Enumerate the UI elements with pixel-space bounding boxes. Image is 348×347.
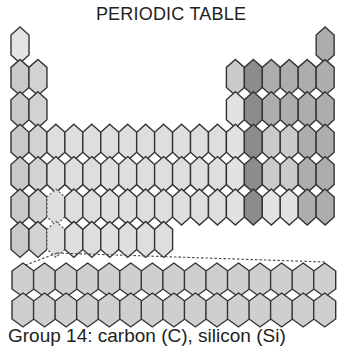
element-cell-p4-g2 bbox=[29, 124, 47, 160]
f-block-cell-r2-c13 bbox=[271, 293, 293, 327]
element-cell-p4-g10 bbox=[173, 124, 191, 160]
f-block-cell-r1-c13 bbox=[271, 263, 293, 297]
element-cell-p4-g3 bbox=[47, 124, 65, 160]
f-block-cell-r2-c15 bbox=[314, 293, 336, 327]
element-cell-p3-g15 bbox=[262, 92, 280, 128]
f-block-cell-r1-c1 bbox=[12, 263, 34, 297]
element-cell-p5-g8 bbox=[137, 157, 155, 193]
element-cell-p6-g8 bbox=[137, 189, 155, 225]
element-cell-p3-g13 bbox=[226, 92, 244, 128]
element-cell-p7-g8 bbox=[137, 221, 155, 257]
element-cell-p7-g4 bbox=[65, 221, 83, 257]
f-block-cell-r1-c10 bbox=[206, 263, 228, 297]
element-cell-p5-g1 bbox=[11, 157, 29, 193]
element-cell-p7-g2 bbox=[29, 221, 47, 257]
f-block-cell-r2-c11 bbox=[228, 293, 250, 327]
f-block-cell-r1-c11 bbox=[228, 263, 250, 297]
element-cell-p4-g5 bbox=[83, 124, 101, 160]
element-cell-p3-g2 bbox=[29, 92, 47, 128]
element-cell-p6-g11 bbox=[191, 189, 209, 225]
element-cell-p4-g15 bbox=[262, 124, 280, 160]
f-block-cell-r1-c7 bbox=[141, 263, 163, 297]
element-cell-p4-g8 bbox=[137, 124, 155, 160]
f-block-cell-r2-c6 bbox=[120, 293, 142, 327]
element-cell-p7-g5 bbox=[83, 221, 101, 257]
element-cell-p4-g1 bbox=[11, 124, 29, 160]
element-cell-p2-g2 bbox=[29, 59, 47, 95]
element-cell-p6-g15 bbox=[262, 189, 280, 225]
f-block-cell-r1-c3 bbox=[55, 263, 77, 297]
element-cell-p4-g6 bbox=[101, 124, 119, 160]
element-cell-p4-g14 bbox=[244, 124, 262, 160]
element-cell-p4-g9 bbox=[155, 124, 173, 160]
element-cell-p2-g14 bbox=[244, 59, 262, 95]
element-cell-p4-g13 bbox=[226, 124, 244, 160]
f-block-cell-r1-c2 bbox=[34, 263, 56, 297]
f-block-cell-r1-c6 bbox=[120, 263, 142, 297]
f-block-cell-r2-c9 bbox=[184, 293, 206, 327]
element-cell-p3-g14 bbox=[244, 92, 262, 128]
element-cell-p5-g2 bbox=[29, 157, 47, 193]
element-cell-p7-g6 bbox=[101, 221, 119, 257]
element-cell-p5-g3 bbox=[47, 157, 65, 193]
element-cell-p6-g7 bbox=[119, 189, 137, 225]
f-block-cell-r2-c12 bbox=[249, 293, 271, 327]
f-block-cell-r1-c15 bbox=[314, 263, 336, 297]
element-cell-p2-g15 bbox=[262, 59, 280, 95]
element-cell-p3-g1 bbox=[11, 92, 29, 128]
element-cell-p3-g17 bbox=[298, 92, 316, 128]
element-cell-p4-g12 bbox=[208, 124, 226, 160]
element-cell-p6-g17 bbox=[298, 189, 316, 225]
element-cell-p5-g11 bbox=[191, 157, 209, 193]
element-cell-p5-g4 bbox=[65, 157, 83, 193]
f-block-cell-r1-c4 bbox=[77, 263, 99, 297]
f-block-expanded bbox=[12, 263, 336, 327]
element-cell-p4-g11 bbox=[191, 124, 209, 160]
f-block-cell-r2-c8 bbox=[163, 293, 185, 327]
element-cell-p6-g13 bbox=[226, 189, 244, 225]
element-cell-p1-g1 bbox=[11, 27, 29, 63]
element-cell-p6-g4 bbox=[65, 189, 83, 225]
f-block-cell-r2-c2 bbox=[34, 293, 56, 327]
element-cell-p6-g1 bbox=[11, 189, 29, 225]
element-cell-p2-g1 bbox=[11, 59, 29, 95]
element-cell-p6-g5 bbox=[83, 189, 101, 225]
element-cell-p2-g18 bbox=[316, 59, 334, 95]
element-cell-p2-g16 bbox=[280, 59, 298, 95]
element-cell-p4-g17 bbox=[298, 124, 316, 160]
element-cell-p5-g7 bbox=[119, 157, 137, 193]
f-block-cell-r2-c14 bbox=[292, 293, 314, 327]
element-cell-p3-g18 bbox=[316, 92, 334, 128]
element-cell-p4-g7 bbox=[119, 124, 137, 160]
element-cell-p5-g13 bbox=[226, 157, 244, 193]
element-cell-p5-g16 bbox=[280, 157, 298, 193]
f-block-cell-r1-c14 bbox=[292, 263, 314, 297]
f-block-cell-r2-c10 bbox=[206, 293, 228, 327]
element-cell-p4-g16 bbox=[280, 124, 298, 160]
element-cell-p6-g14 bbox=[244, 189, 262, 225]
element-cell-p4-g18 bbox=[316, 124, 334, 160]
f-block-cell-r2-c3 bbox=[55, 293, 77, 327]
element-cell-p6-g2 bbox=[29, 189, 47, 225]
element-cell-p5-g9 bbox=[155, 157, 173, 193]
element-cell-p7-g7 bbox=[119, 221, 137, 257]
f-block-cell-r1-c9 bbox=[184, 263, 206, 297]
f-block-cell-r2-c7 bbox=[141, 293, 163, 327]
f-block-cell-r2-c4 bbox=[77, 293, 99, 327]
element-cell-p2-g17 bbox=[298, 59, 316, 95]
element-cell-p5-g12 bbox=[208, 157, 226, 193]
f-block-cell-r1-c5 bbox=[98, 263, 120, 297]
element-cell-p7-g9 bbox=[155, 221, 173, 257]
element-cell-p5-g10 bbox=[173, 157, 191, 193]
main-table bbox=[11, 27, 334, 257]
f-block-cell-r2-c5 bbox=[98, 293, 120, 327]
element-cell-p5-g15 bbox=[262, 157, 280, 193]
element-cell-p6-g16 bbox=[280, 189, 298, 225]
element-cell-p6-g10 bbox=[173, 189, 191, 225]
element-cell-p5-g6 bbox=[101, 157, 119, 193]
f-block-cell-r1-c8 bbox=[163, 263, 185, 297]
element-cell-p7-g3 bbox=[47, 221, 65, 257]
diagram-caption: Group 14: carbon (C), silicon (Si) bbox=[8, 325, 286, 347]
f-block-cell-r2-c1 bbox=[12, 293, 34, 327]
